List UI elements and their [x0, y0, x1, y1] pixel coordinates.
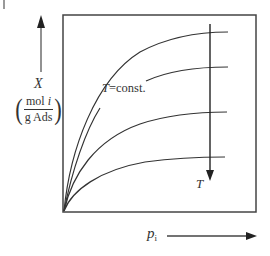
x-axis-symbol: pi: [147, 226, 157, 243]
temperature-arrow-label: T: [196, 177, 203, 190]
curve-label-text: =const.: [109, 81, 146, 95]
x-axis-arrow: [167, 232, 257, 240]
units-numerator: mol i: [24, 95, 53, 110]
x-axis-subscript: i: [155, 233, 158, 243]
isotherm-diagram: [0, 0, 270, 256]
plot-frame: [63, 15, 256, 212]
units-numerator-var: i: [48, 94, 51, 108]
right-paren: ): [54, 94, 62, 124]
units-fraction: mol i g Ads: [24, 95, 53, 123]
y-axis-symbol: X: [34, 77, 43, 91]
curve-label-var: T: [102, 81, 109, 95]
isotherm-curve-2-upper: [146, 67, 228, 81]
x-axis-var: p: [147, 225, 155, 241]
units-numerator-text: mol: [26, 94, 48, 108]
units-denominator: g Ads: [25, 110, 53, 124]
left-paren: (: [15, 94, 23, 124]
y-axis-units: ( mol i g Ads ): [14, 94, 63, 124]
curve-family-label: T=const.: [102, 82, 146, 95]
y-axis-arrow: [37, 15, 45, 72]
isotherm-curve-2-lower: [64, 108, 100, 211]
